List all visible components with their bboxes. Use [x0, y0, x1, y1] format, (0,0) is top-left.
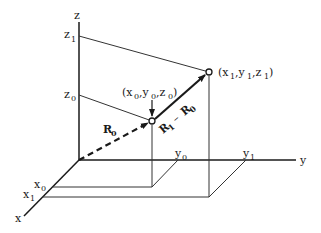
vector-diagram: z y x z 1 z 0 y 0 y 1 x 0 x 1 (x 0 ,y 0 … — [0, 0, 321, 233]
svg-text:y: y — [242, 147, 250, 160]
svg-text:,y: ,y — [139, 86, 149, 99]
diagram-svg: z y x z 1 z 0 y 0 y 1 x 0 x 1 (x 0 ,y 0 … — [0, 0, 321, 233]
svg-text:z: z — [64, 88, 70, 101]
svg-text:1: 1 — [250, 153, 255, 162]
point-p1 — [206, 69, 212, 75]
svg-text:0: 0 — [41, 184, 46, 193]
svg-text:): ) — [269, 66, 273, 79]
point-p1-label: (x 1 ,y 1 ,z 1 ) — [218, 66, 273, 81]
svg-text:,z: ,z — [156, 86, 165, 99]
x0-tick-label: x 0 — [34, 178, 46, 193]
y0-line — [152, 160, 178, 187]
y-axis-label: y — [299, 154, 307, 167]
svg-text:(x: (x — [122, 86, 133, 99]
svg-text:0: 0 — [71, 94, 76, 103]
r1-minus-r0-label: R 1 – R 0 — [157, 99, 199, 137]
y0-tick-label: y 0 — [174, 147, 187, 162]
svg-text:,y: ,y — [235, 66, 245, 79]
point-p0 — [149, 118, 155, 124]
svg-text:y: y — [174, 147, 182, 160]
svg-text:): ) — [173, 86, 177, 99]
guide-lines — [43, 36, 246, 197]
svg-text:z: z — [64, 28, 70, 41]
point-p0-label: (x 0 ,y 0 ,z 0 ) — [122, 86, 177, 101]
y1-line — [209, 160, 246, 197]
svg-text:0: 0 — [182, 153, 187, 162]
x-axis-label: x — [15, 212, 22, 225]
svg-text:x: x — [34, 178, 41, 191]
r0-label: R 0 — [103, 123, 117, 138]
x-axis — [24, 160, 79, 216]
svg-text:,z: ,z — [252, 66, 261, 79]
svg-text:0: 0 — [111, 128, 117, 138]
svg-text:1: 1 — [71, 35, 76, 44]
z0-tick-label: z 0 — [64, 88, 76, 103]
z-axis-label: z — [74, 9, 80, 22]
svg-text:(x: (x — [218, 66, 229, 79]
z1-to-p1 — [79, 36, 209, 72]
z1-tick-label: z 1 — [64, 28, 76, 44]
y1-tick-label: y 1 — [242, 147, 255, 162]
svg-text:1: 1 — [30, 194, 35, 203]
svg-text:x: x — [23, 188, 30, 201]
